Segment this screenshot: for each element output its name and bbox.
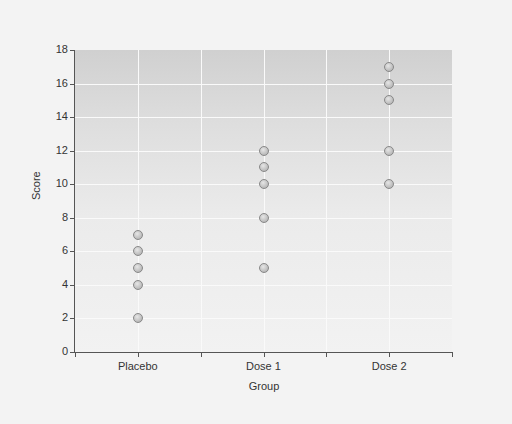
- y-tick: [70, 184, 75, 185]
- gridline-v: [201, 50, 202, 352]
- data-point: [133, 263, 143, 273]
- y-tick: [70, 50, 75, 51]
- data-point: [259, 162, 269, 172]
- data-point: [384, 146, 394, 156]
- x-tick: [138, 352, 139, 357]
- x-tick: [326, 352, 327, 357]
- gridline-v: [326, 50, 327, 352]
- y-tick: [70, 218, 75, 219]
- gridline-v: [138, 50, 139, 352]
- x-tick-label: Placebo: [98, 360, 178, 372]
- x-tick: [75, 352, 76, 357]
- y-axis-title: Score: [30, 171, 42, 200]
- x-tick: [452, 352, 453, 357]
- y-tick-label: 2: [38, 311, 68, 323]
- x-tick: [201, 352, 202, 357]
- x-tick: [264, 352, 265, 357]
- x-axis-title: Group: [224, 380, 304, 392]
- y-tick: [70, 318, 75, 319]
- y-tick-label: 10: [38, 177, 68, 189]
- y-tick: [70, 285, 75, 286]
- y-axis: [74, 50, 75, 353]
- data-point: [259, 263, 269, 273]
- x-tick-label: Dose 2: [349, 360, 429, 372]
- data-point: [259, 213, 269, 223]
- y-tick-label: 16: [38, 77, 68, 89]
- y-tick-label: 4: [38, 278, 68, 290]
- y-tick: [70, 251, 75, 252]
- y-tick: [70, 151, 75, 152]
- x-tick-label: Dose 1: [224, 360, 304, 372]
- x-tick: [389, 352, 390, 357]
- data-point: [384, 79, 394, 89]
- data-point: [259, 146, 269, 156]
- y-tick-label: 8: [38, 211, 68, 223]
- data-point: [384, 62, 394, 72]
- y-tick: [70, 84, 75, 85]
- y-tick-label: 18: [38, 43, 68, 55]
- y-tick-label: 0: [38, 345, 68, 357]
- data-point: [133, 230, 143, 240]
- y-tick-label: 14: [38, 110, 68, 122]
- y-tick: [70, 117, 75, 118]
- y-tick-label: 6: [38, 244, 68, 256]
- data-point: [133, 280, 143, 290]
- plot-area: [75, 50, 452, 352]
- gridline-v: [264, 50, 265, 352]
- y-tick-label: 12: [38, 144, 68, 156]
- data-point: [259, 179, 269, 189]
